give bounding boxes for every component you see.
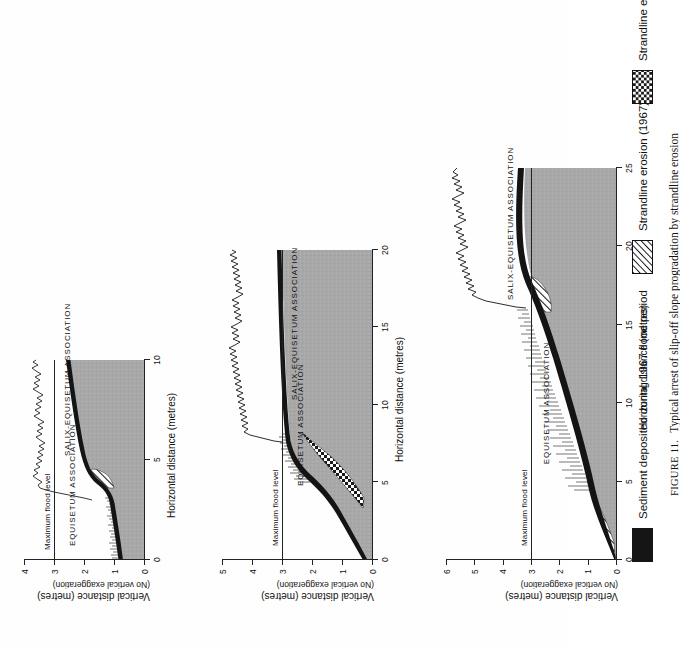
- y-tick-a-0: [144, 560, 145, 565]
- y-ticklabel-b-0: 0: [368, 569, 378, 574]
- y-ticklabel-a-1: 1: [110, 569, 120, 574]
- x-axis-c: [616, 167, 617, 560]
- y-tick-a-3: [54, 560, 55, 565]
- y-axis-b: [222, 559, 373, 560]
- x-ticklabel-a-2: 10: [152, 355, 162, 365]
- veg-label-equisetum-c: EQUISETUM ASSOCIATION: [542, 338, 552, 468]
- y-ticklabel-b-2: 2: [308, 569, 318, 574]
- legend-label-strandline-1967: Strandline erosion (1967): [637, 102, 649, 231]
- x-tick-c-1: [617, 481, 622, 482]
- y-tick-c-5: [474, 560, 475, 565]
- profile-chart-a: Maximum flood level EQUISETUM ASSOCIATIO…: [24, 360, 144, 560]
- x-tick-c-5: [617, 167, 622, 168]
- profile-a-plot: [24, 360, 144, 560]
- substrate-fill-a: [68, 360, 144, 560]
- x-tick-c-3: [617, 324, 622, 325]
- y-ticklabel-c-4: 4: [498, 569, 508, 574]
- y-ticklabel-b-3: 3: [278, 569, 288, 574]
- figure-caption-text: Typical arrest of slip-off slope prograd…: [668, 133, 680, 433]
- veg-label-salix-a: SALIX-EQUISETUM ASSOCIATION: [63, 370, 73, 456]
- y-ticklabel-a-3: 3: [50, 569, 60, 574]
- x-tick-c-4: [617, 245, 622, 246]
- y-tick-c-6: [446, 560, 447, 565]
- y-axis-title-c: Vertical distance (metres): [505, 591, 618, 602]
- x-ticklabel-b-4: 20: [380, 245, 390, 255]
- x-tick-b-0: [373, 559, 378, 560]
- y-axis-title-b: Vertical distance (metres): [261, 591, 374, 602]
- y-tick-c-2: [559, 560, 560, 565]
- y-tick-b-2: [312, 560, 313, 565]
- veg-label-salix-b: SALIX-EQUISETUM ASSOCIATION: [290, 310, 300, 400]
- y-ticklabel-c-5: 5: [470, 569, 480, 574]
- x-tick-c-2: [617, 402, 622, 403]
- y-tick-c-1: [588, 560, 589, 565]
- x-ticklabel-b-2: 10: [380, 400, 390, 410]
- veg-label-equisetum-c-text: EQUISETUM ASSOCIATION: [542, 342, 551, 464]
- y-ticklabel-c-2: 2: [555, 569, 565, 574]
- x-tick-a-2: [145, 359, 150, 360]
- y-ticklabel-c-3: 3: [527, 569, 537, 574]
- veg-label-equisetum-b: EQUISETUM ASSOCIATION: [296, 426, 306, 486]
- legend-label-sediment-1967: Sediment deposited during 1967 flood per…: [637, 290, 649, 519]
- veg-label-salix-a-text: SALIX-EQUISETUM ASSOCIATION: [63, 303, 72, 456]
- flood-level-line-b: [282, 250, 283, 560]
- veg-label-salix-c-text: SALIX-EQUISETUM ASSOCIATION: [506, 147, 515, 300]
- legend-swatch-sediment-1967: [632, 528, 653, 562]
- canopy-trace-b: [229, 250, 282, 442]
- x-ticklabel-a-0: 0: [152, 557, 162, 562]
- y-tick-b-3: [282, 560, 283, 565]
- y-axis-subtitle-c: (No vertical exaggeration): [521, 580, 618, 590]
- legend-swatch-strandline-1967: [632, 240, 653, 274]
- flood-level-line-a: [54, 360, 55, 560]
- legend-swatch-strandline-1966: [632, 70, 653, 104]
- y-tick-c-3: [531, 560, 532, 565]
- legend-label-strandline-1966: Strandline erosion (1966): [637, 0, 649, 61]
- figure-caption-number: FIGURE 11.: [669, 440, 680, 496]
- legend-item-strandline-1967: Strandline erosion (1967): [632, 102, 653, 274]
- x-tick-a-1: [145, 459, 150, 460]
- y-ticklabel-a-2: 2: [80, 569, 90, 574]
- y-tick-c-0: [616, 560, 617, 565]
- flood-level-label-a: Maximum flood level: [43, 473, 52, 550]
- y-axis-subtitle-b: (No vertical exaggeration): [277, 580, 374, 590]
- x-tick-b-1: [373, 482, 378, 483]
- y-tick-b-5: [222, 560, 223, 565]
- y-tick-b-4: [252, 560, 253, 565]
- y-ticklabel-b-1: 1: [338, 569, 348, 574]
- y-ticklabel-c-6: 6: [442, 569, 452, 574]
- x-ticklabel-a-1: 5: [152, 457, 162, 462]
- profile-chart-b: Maximum flood level EQUISETUM ASSOCIATIO…: [222, 250, 372, 560]
- y-tick-a-2: [84, 560, 85, 565]
- veg-label-salix-b-text: SALIX-EQUISETUM ASSOCIATION: [290, 247, 299, 400]
- y-ticklabel-b-4: 4: [248, 569, 258, 574]
- x-axis-title-b: Horizontal distance (metres): [394, 337, 405, 462]
- legend-item-sediment-1967: Sediment deposited during 1967 flood per…: [632, 290, 653, 562]
- x-tick-b-4: [373, 249, 378, 250]
- x-axis-title-a: Horizontal distance (metres): [166, 393, 177, 518]
- y-ticklabel-b-5: 5: [218, 569, 228, 574]
- flood-level-label-c: Maximum flood level: [520, 469, 529, 546]
- legend-item-strandline-1966: Strandline erosion (1966): [632, 0, 653, 104]
- y-ticklabel-a-4: 4: [20, 569, 30, 574]
- y-tick-c-4: [503, 560, 504, 565]
- x-tick-b-3: [373, 327, 378, 328]
- y-ticklabel-a-0: 0: [140, 569, 150, 574]
- x-tick-a-0: [145, 559, 150, 560]
- figure-legend: Sediment deposited during 1967 flood per…: [632, 42, 658, 562]
- x-ticklabel-b-3: 15: [380, 322, 390, 332]
- x-ticklabel-b-0: 0: [380, 557, 390, 562]
- flood-level-line-c: [531, 168, 532, 560]
- y-tick-a-1: [114, 560, 115, 565]
- x-tick-b-2: [373, 404, 378, 405]
- substrate-fill-c: [524, 168, 616, 560]
- x-tick-c-0: [617, 559, 622, 560]
- figure-caption: FIGURE 11. Typical arrest of slip-off sl…: [668, 133, 680, 496]
- x-ticklabel-b-1: 5: [380, 480, 390, 485]
- flood-level-label-b: Maximum flood level: [271, 469, 280, 546]
- y-axis-title-a: Vertical distance (metres): [37, 591, 150, 602]
- profile-chart-c: Maximum flood level EQUISETUM ASSOCIATIO…: [446, 168, 616, 560]
- veg-label-equisetum-a: EQUISETUM ASSOCIATION: [68, 472, 78, 546]
- y-axis-subtitle-a: (No vertical exaggeration): [53, 580, 150, 590]
